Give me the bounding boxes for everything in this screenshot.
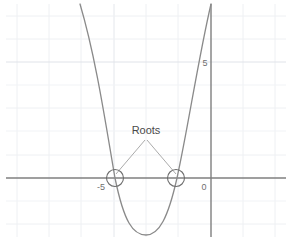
chart-canvas: Roots -5 0 5 (0, 0, 290, 241)
x-tick-label-0: 0 (201, 182, 206, 192)
x-tick-label-minus-5: -5 (97, 182, 105, 192)
roots-annotation-label: Roots (132, 124, 161, 136)
parabola-roots-figure: Roots -5 0 5 (0, 0, 290, 241)
y-tick-label-5: 5 (202, 58, 207, 68)
